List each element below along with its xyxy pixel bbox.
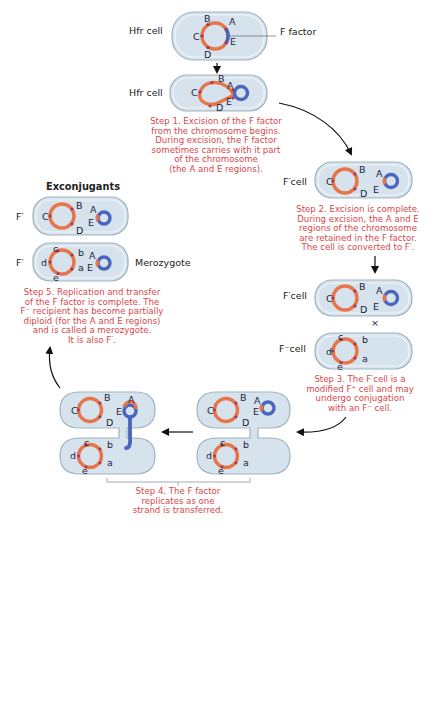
- gene-label-d: D: [106, 417, 113, 428]
- conjugating-pair-left: B A C D E c b d e a: [60, 392, 155, 476]
- gene-label-b: B: [240, 392, 247, 403]
- step4-bracket: [107, 478, 250, 486]
- fminus-cell-label: F⁻cell: [279, 343, 306, 354]
- gene-label-d: D: [242, 417, 249, 428]
- gene-label-e-lower: e: [218, 465, 224, 476]
- gene-label-e: E: [373, 184, 379, 195]
- gene-label-b: B: [359, 164, 366, 175]
- hfr-cell-excision: B A C D E: [170, 73, 267, 113]
- step2-line: regions of the chromosome: [299, 223, 417, 233]
- gene-label-a: A: [227, 80, 234, 91]
- gene-label-c-lower: c: [220, 437, 225, 448]
- gene-label-e: E: [116, 406, 122, 417]
- step5-line: of the F factor is complete. The: [25, 297, 160, 307]
- curved-arrow-up-icon: [49, 348, 60, 388]
- gene-label-d-lower: d: [326, 346, 332, 357]
- exconjugant-donor-label: F′: [16, 211, 24, 222]
- gene-label-e-lower: e: [82, 465, 88, 476]
- gene-label-d: D: [360, 304, 367, 315]
- step2-line: are retained in the F factor.: [299, 233, 416, 243]
- gene-label-d: D: [216, 102, 223, 113]
- gene-label-a: A: [254, 395, 261, 406]
- gene-label-d-lower: d: [206, 450, 212, 461]
- gene-label-c-lower: c: [53, 243, 58, 254]
- step3-caption: Step 3. The F′cell is a modified F⁺ cell…: [306, 374, 414, 413]
- fprime-cell-label-step2: F′cell: [283, 176, 307, 187]
- fprime-cell-step3: B A C D E: [315, 280, 412, 316]
- gene-label-c-lower: c: [338, 331, 343, 342]
- hfr-cell-label-1: Hfr cell: [129, 25, 163, 36]
- gene-label-d-lower: d: [41, 257, 47, 268]
- gene-label-a: A: [128, 394, 135, 405]
- gene-label-b: B: [359, 281, 366, 292]
- gene-label-e-lower: e: [337, 361, 343, 372]
- gene-label-a-lower: a: [78, 262, 84, 273]
- gene-label-d: D: [360, 188, 367, 199]
- step1-line: During excision, the F factor: [155, 135, 277, 145]
- gene-label-c: C: [191, 87, 198, 98]
- gene-label-e: E: [373, 301, 379, 312]
- gene-label-b: B: [76, 200, 83, 211]
- gene-label-b: B: [204, 13, 211, 24]
- step5-line: Step 5. Replication and transfer: [24, 287, 161, 297]
- gene-label-c: C: [207, 405, 214, 416]
- gene-label-c: C: [326, 176, 333, 187]
- gene-label-a: A: [89, 250, 96, 261]
- step4-line: strand is transferred.: [133, 505, 223, 515]
- step1-line: from the chromosome begins.: [151, 126, 280, 136]
- step3-line: Step 3. The F′cell is a: [314, 374, 405, 384]
- step5-line: F⁻ recipient has become partially: [21, 306, 164, 316]
- step1-line: (the A and E regions).: [169, 164, 263, 174]
- fminus-cell: c b d e a: [315, 331, 412, 372]
- gene-label-a-lower: a: [362, 353, 368, 364]
- step3-line: undergo conjugation: [316, 393, 405, 403]
- gene-label-e: E: [230, 36, 236, 47]
- curved-arrow-icon: [298, 417, 346, 432]
- step2-caption: Step 2. Excision is complete. During exc…: [296, 204, 419, 252]
- gene-label-c: C: [42, 211, 49, 222]
- gene-label-a-lower: a: [243, 457, 249, 468]
- gene-label-b-lower: b: [78, 247, 84, 258]
- gene-label-c: C: [193, 31, 200, 42]
- gene-label-c: C: [71, 405, 78, 416]
- gene-label-b-lower: b: [362, 334, 368, 345]
- exconjugant-donor-cell: B A C D E: [33, 197, 128, 236]
- gene-label-c-lower: c: [84, 437, 89, 448]
- step1-line: of the chromosome: [174, 154, 258, 164]
- gene-label-e: E: [88, 217, 94, 228]
- conjugating-pair-right: B A C D E c b d e a: [197, 392, 290, 476]
- gene-label-e: E: [87, 262, 93, 273]
- gene-label-d: D: [204, 49, 211, 60]
- merozygote-label: Merozygote: [135, 257, 191, 268]
- step2-line: Step 2. Excision is complete.: [296, 204, 419, 214]
- gene-label-a: A: [376, 168, 383, 179]
- step4-line: Step 4. The F factor: [136, 486, 221, 496]
- step3-line: modified F⁺ cell and may: [306, 384, 414, 394]
- step4-line: replicates as one: [141, 496, 214, 506]
- f-factor-label: F factor: [280, 26, 316, 37]
- gene-label-d-lower: d: [70, 450, 76, 461]
- fprime-cell-label-step3: F′cell: [283, 290, 307, 301]
- exconjugant-merozygote-cell: c b d e a A E: [33, 243, 128, 283]
- hfr-cell-integrated: B A C D E: [172, 12, 276, 60]
- step2-line: During excision, the A and E: [297, 214, 419, 224]
- exconjugant-recipient-label: F′: [16, 257, 24, 268]
- gene-label-d: D: [76, 225, 83, 236]
- gene-label-c: C: [326, 293, 333, 304]
- step2-line: The cell is converted to F′.: [301, 242, 415, 252]
- fprime-cell-step2: B A C D E: [315, 162, 412, 199]
- gene-label-a-lower: a: [107, 457, 113, 468]
- step1-line: sometimes carries with it part: [152, 145, 282, 155]
- conjugation-diagram: B A C D E Hfr cell F factor B A C D E Hf…: [0, 0, 438, 711]
- step3-line: with an F⁻ cell.: [328, 403, 392, 413]
- step1-line: Step 1. Excision of the F factor: [150, 116, 282, 126]
- step1-caption: Step 1. Excision of the F factor from th…: [150, 116, 282, 174]
- hfr-cell-label-2: Hfr cell: [129, 87, 163, 98]
- gene-label-b-lower: b: [243, 439, 249, 450]
- gene-label-a: A: [90, 204, 97, 215]
- gene-label-a: A: [376, 285, 383, 296]
- gene-label-e: E: [253, 406, 259, 417]
- curved-arrow-icon: [279, 103, 351, 154]
- gene-label-b: B: [104, 392, 111, 403]
- step4-caption: Step 4. The F factor replicates as one s…: [133, 486, 223, 515]
